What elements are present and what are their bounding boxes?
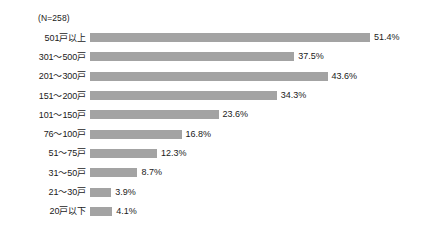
bar-track: 4.1% xyxy=(90,207,429,216)
category-label: 31～50戸 xyxy=(0,168,86,178)
bar-track: 3.9% xyxy=(90,188,429,197)
category-label: 20戸以下 xyxy=(0,206,86,216)
bar-value-label: 51.4% xyxy=(374,33,400,42)
bar-track: 37.5% xyxy=(90,52,429,61)
bar-value-label: 16.8% xyxy=(186,130,212,139)
bar-value-label: 34.3% xyxy=(281,91,307,100)
category-label: 301～500戸 xyxy=(0,52,86,62)
bar-fill xyxy=(90,130,182,139)
bar-row: 301～500戸37.5% xyxy=(0,47,429,66)
bar-value-label: 12.3% xyxy=(161,149,187,158)
bar-value-label: 37.5% xyxy=(298,52,324,61)
bar-row: 201～300戸43.6% xyxy=(0,67,429,86)
plot-area: 501戸以上51.4%301～500戸37.5%201～300戸43.6%151… xyxy=(0,28,429,221)
bar-fill xyxy=(90,110,219,119)
bar-chart: (N=258) 501戸以上51.4%301～500戸37.5%201～300戸… xyxy=(0,0,429,233)
bar-fill xyxy=(90,91,277,100)
bar-fill xyxy=(90,188,111,197)
category-label: 201～300戸 xyxy=(0,71,86,81)
category-label: 21～30戸 xyxy=(0,187,86,197)
bar-row: 51～75戸12.3% xyxy=(0,144,429,163)
bar-track: 43.6% xyxy=(90,72,429,81)
bar-value-label: 3.9% xyxy=(115,188,136,197)
bar-row: 101～150戸23.6% xyxy=(0,105,429,124)
bar-value-label: 23.6% xyxy=(223,110,249,119)
bar-row: 501戸以上51.4% xyxy=(0,28,429,47)
bar-track: 16.8% xyxy=(90,130,429,139)
bar-row: 151～200戸34.3% xyxy=(0,86,429,105)
category-label: 101～150戸 xyxy=(0,110,86,120)
bar-fill xyxy=(90,72,328,81)
bar-fill xyxy=(90,33,370,42)
category-label: 501戸以上 xyxy=(0,33,86,43)
bar-fill xyxy=(90,52,294,61)
bar-row: 20戸以下4.1% xyxy=(0,202,429,221)
bar-track: 23.6% xyxy=(90,110,429,119)
category-label: 151～200戸 xyxy=(0,91,86,101)
bar-track: 8.7% xyxy=(90,168,429,177)
bar-track: 34.3% xyxy=(90,91,429,100)
bar-row: 31～50戸8.7% xyxy=(0,163,429,182)
bar-value-label: 43.6% xyxy=(332,72,358,81)
category-label: 76～100戸 xyxy=(0,129,86,139)
bar-row: 76～100戸16.8% xyxy=(0,124,429,143)
category-label: 51～75戸 xyxy=(0,148,86,158)
bar-value-label: 4.1% xyxy=(116,207,137,216)
bar-fill xyxy=(90,149,157,158)
bar-row: 21～30戸3.9% xyxy=(0,182,429,201)
bar-track: 51.4% xyxy=(90,33,429,42)
bar-track: 12.3% xyxy=(90,149,429,158)
bar-value-label: 8.7% xyxy=(141,168,162,177)
sample-size-label: (N=258) xyxy=(38,13,70,23)
bar-fill xyxy=(90,207,112,216)
bar-fill xyxy=(90,168,137,177)
